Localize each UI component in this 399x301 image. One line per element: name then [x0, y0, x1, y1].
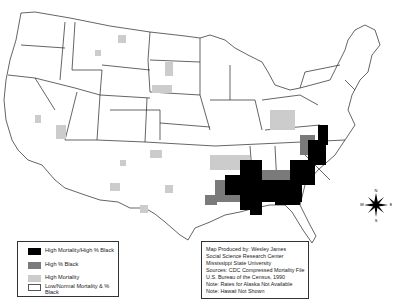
legend-item-high-mortality: High Mortality: [28, 274, 115, 282]
credit-line: Social Science Research Center: [206, 253, 308, 260]
compass-w: W: [360, 202, 364, 207]
legend-item-high-black: High % Black: [28, 261, 115, 269]
legend-label: High % Black: [45, 261, 115, 267]
legend-swatch: [28, 248, 41, 255]
credits-box: Map Produced by: Wesley James Social Sci…: [201, 241, 309, 299]
credit-line: U.S. Bureau of the Census, 1990: [206, 274, 308, 281]
credit-line: Note: Rates for Alaska Not Available: [206, 281, 308, 288]
legend-swatch: [28, 284, 41, 291]
credit-line: Sources: CDC Compressed Mortality File: [206, 267, 308, 274]
legend-label: High Mortality: [45, 274, 115, 280]
legend-label: Low/Normal Mortality & % Black: [45, 283, 115, 295]
legend-item-low-normal: Low/Normal Mortality & % Black: [28, 283, 115, 295]
compass-s: S: [375, 218, 378, 223]
credit-line: Mississippi State University: [206, 260, 308, 267]
compass-e: E: [390, 202, 392, 207]
compass-rose-icon: N S E W: [360, 187, 392, 223]
legend: High Mortality/High % Black High % Black…: [17, 241, 119, 297]
credit-line: Note: Hawaii Not Shown: [206, 288, 308, 295]
legend-swatch: [28, 262, 41, 269]
legend-item-high-mortality-high-black: High Mortality/High % Black: [28, 247, 115, 255]
credit-line: Map Produced by: Wesley James: [206, 246, 308, 253]
compass-n: N: [375, 188, 378, 193]
legend-swatch: [28, 275, 41, 282]
legend-label: High Mortality/High % Black: [45, 247, 115, 253]
